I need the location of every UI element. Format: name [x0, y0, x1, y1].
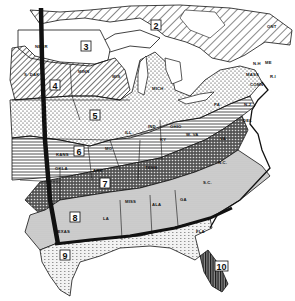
label-ala: ALA	[152, 202, 161, 207]
label-minn: MINN	[78, 69, 90, 74]
label-s-dak: S. DAK	[24, 72, 39, 77]
zone-7-label: 7	[100, 178, 110, 189]
zone-map: 2 3 4 5 6 7 8 9	[0, 0, 295, 301]
svg-text:6: 6	[77, 147, 82, 157]
label-kans: KANS	[56, 152, 69, 157]
label-wis: WIS	[112, 74, 121, 79]
label-me: ME	[265, 60, 272, 65]
label-ont: ONT	[267, 24, 277, 29]
zone-6-label: 6	[74, 146, 84, 157]
zone-3-label: 3	[81, 41, 91, 52]
label-va: VA	[220, 136, 226, 141]
label-mass: MASS	[246, 72, 259, 77]
label-ill: ILL	[125, 130, 132, 135]
label-ark: ARK	[93, 168, 103, 173]
label-ga: GA	[180, 197, 187, 202]
svg-text:8: 8	[73, 213, 78, 223]
label-n-j: N.J	[244, 102, 252, 107]
zone-8-label: 8	[70, 212, 80, 223]
svg-text:3: 3	[84, 42, 89, 52]
svg-text:7: 7	[103, 179, 108, 189]
zone-4-label: 4	[50, 80, 60, 91]
label-miss: MISS	[125, 199, 136, 204]
label-mich: MICH	[152, 86, 164, 91]
svg-text:10: 10	[217, 262, 227, 272]
label-r-i: R.I	[270, 74, 276, 79]
label-okla: OKLA	[55, 166, 68, 171]
svg-text:9: 9	[63, 251, 68, 261]
svg-text:5: 5	[93, 111, 98, 121]
label-pa: PA	[214, 102, 220, 107]
label-nebr: NEBR	[35, 44, 48, 49]
label-fla: FLA	[196, 229, 205, 234]
label-ohio: OHIO	[170, 124, 182, 129]
label-ind: IND	[148, 124, 156, 129]
label-w-va: W. VA	[186, 132, 199, 137]
label-texas: TEXAS	[55, 229, 70, 234]
svg-text:4: 4	[53, 81, 58, 91]
label-ky: KY	[160, 137, 166, 142]
label-conn: CONN	[250, 82, 263, 87]
svg-text:2: 2	[154, 21, 159, 31]
zone-10-label: 10	[215, 261, 228, 272]
label-mo: MO	[105, 146, 113, 151]
label-s-c: S.C.	[203, 180, 212, 185]
label-del: DEL	[243, 118, 252, 123]
zone-2-label: 2	[151, 20, 161, 31]
zone-9-label: 9	[60, 250, 70, 261]
zone-5-label: 5	[90, 110, 100, 121]
label-n-c: N.C.	[218, 160, 227, 165]
label-tenn: TENN	[145, 165, 157, 170]
label-n-h: N.H	[253, 61, 261, 66]
label-la: LA	[103, 216, 109, 221]
